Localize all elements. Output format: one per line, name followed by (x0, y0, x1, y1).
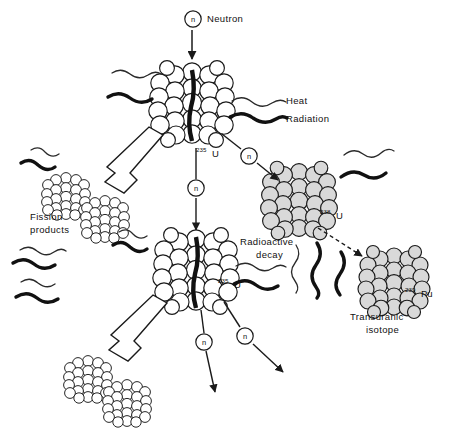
label-radiation: Radiation (286, 113, 329, 124)
wave-radiation-u238-upper-right (341, 172, 386, 178)
fission-diagram: n n n n n Neutron Heat Radiation 235 U (0, 0, 456, 447)
neutron-glyph: n (202, 338, 206, 347)
neutron-marker-to-u235-lower[interactable]: n (188, 180, 204, 196)
wave-radiation-fission-upper (21, 160, 55, 169)
nucleus-u238 (261, 161, 338, 240)
arrow-neutron-emit-right-upper (224, 302, 240, 327)
wave-radiation-decay-vertical (312, 243, 320, 298)
wave-radiation-mid-left-2 (16, 294, 58, 303)
isotope-label-u235-top: 235 U (196, 146, 219, 159)
caption-line-2: decay (256, 249, 283, 260)
neutron-glyph: n (194, 184, 198, 193)
nucleus-fission-product (103, 380, 152, 428)
wave-heat-decay-vertical (292, 245, 299, 293)
nucleus-fission-product (81, 196, 130, 244)
wave-heat-mid-left (20, 247, 66, 255)
neutron-marker-emitted-right[interactable]: n (237, 328, 253, 344)
arrow-neutron-emit-right-lower (253, 344, 283, 372)
nucleus-pu239 (358, 246, 430, 319)
diagram-canvas: n n n n n Neutron Heat Radiation 235 U (0, 0, 456, 447)
wave-radiation-legend (230, 114, 287, 123)
caption-line-1: Transuranic (350, 311, 404, 322)
wave-heat-mid-right (236, 263, 286, 271)
caption-radioactive-decay: Radioactive decay (240, 236, 294, 260)
isotope-symbol: Pu (421, 288, 433, 299)
wave-heat-fission-upper (31, 148, 59, 156)
isotope-mass-number: 235 (196, 146, 207, 153)
caption-transuranic-isotope: Transuranic isotope (350, 311, 404, 335)
caption-line-2: products (30, 224, 69, 235)
isotope-mass-number: 239 (405, 286, 416, 293)
neutron-glyph: n (243, 332, 247, 341)
wave-radiation-mid-left (13, 260, 55, 269)
isotope-symbol: U (212, 148, 219, 159)
wave-heat-u238-upper-right (344, 149, 394, 157)
wave-heat-mid-left-2 (21, 279, 55, 287)
wave-radiation-fission-right (113, 242, 147, 251)
neutron-marker-incoming[interactable]: n (185, 11, 201, 27)
isotope-mass-number: 235 (218, 277, 229, 284)
arrow-neutron-emit-left-lower (206, 351, 215, 392)
label-heat: Heat (286, 95, 307, 106)
neutron-marker-to-u238[interactable]: n (241, 148, 257, 164)
label-neutron: Neutron (207, 13, 243, 24)
isotope-mass-number: 238 (320, 208, 331, 215)
neutron-glyph: n (247, 152, 251, 161)
arrow-neutron-emit-left-upper (201, 310, 204, 333)
isotope-symbol: U (336, 210, 343, 221)
arrow-u235-to-u238-upper (222, 134, 241, 149)
caption-line-2: isotope (366, 324, 399, 335)
hollow-arrow-fission-products-lower (109, 295, 167, 361)
neutron-marker-emitted-left[interactable]: n (196, 334, 212, 350)
wave-radiation-decay-vertical-2 (336, 252, 344, 295)
isotope-symbol: U (234, 279, 241, 290)
caption-line-1: Radioactive (240, 236, 294, 247)
hollow-arrow-fission-products-upper (105, 127, 163, 193)
caption-line-1: Fission (30, 211, 63, 222)
wave-radiation-upper-left (108, 94, 152, 103)
wave-heat-legend (232, 98, 286, 107)
nucleus-u235-bottom (153, 228, 239, 315)
neutron-glyph: n (191, 15, 195, 24)
